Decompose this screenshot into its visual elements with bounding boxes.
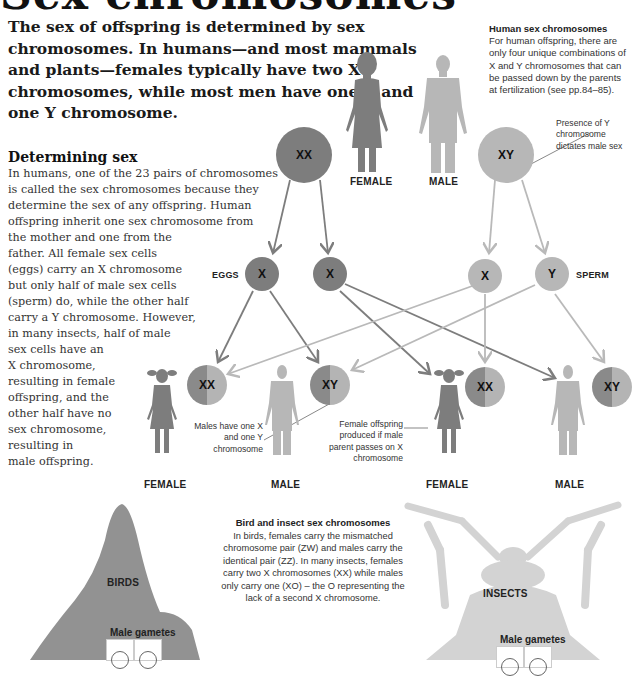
offspring-xx-circle-2: XX: [465, 367, 505, 407]
parent-female-label: FEMALE: [350, 176, 392, 187]
female-offspring-annotation: Female offspring produced if male parent…: [327, 419, 403, 465]
offspring-xy-circle-2: XY: [592, 367, 632, 407]
gamete-circle-icon: [501, 658, 519, 676]
insects-label: INSECTS: [483, 588, 528, 599]
gamete-circle-icon: [139, 651, 157, 669]
mother-xx-circle: XX: [276, 127, 332, 183]
son-silhouette-icon-1: [262, 365, 302, 455]
insect-gamete-box: [524, 646, 552, 668]
bird-insect-heading: Bird and insect sex chromosomes: [220, 517, 406, 528]
bird-gamete-box: [106, 639, 134, 661]
birds-male-gametes-label: Male gametes: [110, 627, 176, 638]
daughter-silhouette-icon-2: [430, 367, 468, 453]
offspring-xx-circle-1: XX: [187, 365, 227, 405]
offspring-male-label-1: MALE: [271, 479, 300, 490]
bird-gamete-box: [134, 639, 162, 661]
sperm-label: SPERM: [576, 270, 609, 280]
gamete-circle-icon: [111, 651, 129, 669]
offspring-female-label-1: FEMALE: [144, 479, 186, 490]
birds-label: BIRDS: [107, 577, 139, 588]
offspring-male-label-2: MALE: [555, 479, 584, 490]
father-silhouette-icon: [417, 55, 469, 173]
insects-male-gametes-label: Male gametes: [500, 634, 566, 645]
mother-silhouette-icon: [342, 52, 392, 172]
birds-gamete-boxes: [106, 639, 162, 661]
egg-x-circle-2: X: [313, 257, 347, 291]
insect-gamete-box: [496, 646, 524, 668]
males-have-annotation: Males have one X and one Y chromosome: [188, 421, 263, 455]
offspring-xy-circle-1: XY: [310, 365, 350, 405]
daughter-silhouette-icon-1: [143, 367, 181, 453]
son-silhouette-icon-2: [548, 365, 588, 455]
insects-gamete-boxes: [496, 646, 552, 668]
sperm-y-circle: Y: [535, 257, 569, 291]
egg-x-circle-1: X: [245, 257, 279, 291]
sperm-x-circle: X: [468, 259, 502, 293]
bird-insect-body: In birds, females carry the mismatched c…: [218, 530, 408, 604]
offspring-female-label-2: FEMALE: [426, 479, 468, 490]
father-xy-circle: XY: [478, 127, 534, 183]
presence-of-y-annotation: Presence of Y chromosome dictates male s…: [556, 118, 628, 152]
parent-male-label: MALE: [429, 176, 458, 187]
gamete-circle-icon: [529, 658, 547, 676]
eggs-label: EGGS: [212, 270, 239, 280]
